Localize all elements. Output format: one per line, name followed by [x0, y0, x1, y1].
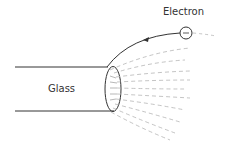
field-lines [110, 48, 190, 140]
glass-label: Glass [48, 83, 75, 94]
end-face-ticks [110, 76, 117, 100]
electron-label: Electron [163, 6, 204, 17]
diagram-canvas [0, 0, 227, 147]
electron-continuation [193, 33, 216, 36]
electron-trajectory [107, 33, 180, 67]
